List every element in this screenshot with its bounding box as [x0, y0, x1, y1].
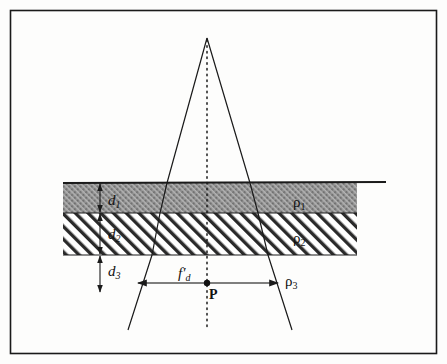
diagram-canvas: [0, 0, 447, 364]
ground-surface-line: [63, 182, 386, 183]
label-rho2: ρ2: [293, 230, 306, 248]
label-rho1: ρ1: [293, 194, 306, 212]
label-d1: d1: [108, 192, 121, 210]
figure-root: d1 d2 d3 ρ1 ρ2 ρ3 f′d P: [0, 0, 447, 364]
focus-point-dot: [204, 280, 210, 286]
label-rho3: ρ3: [285, 273, 298, 291]
label-point-p: P: [209, 288, 218, 302]
label-d2: d2: [108, 226, 121, 244]
label-d3: d3: [108, 263, 121, 281]
label-focal-length: f′d: [178, 265, 190, 283]
